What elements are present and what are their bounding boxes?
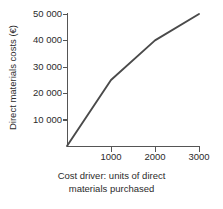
y-axis-ticklabel: 30 000	[10, 62, 62, 72]
series-line-direct-materials-costs	[67, 14, 199, 146]
y-axis-ticklabel: 50 000	[10, 9, 62, 19]
line-chart: Direct materials costs (€) 50 000 40 000…	[0, 0, 223, 209]
x-axis-ticklabel: 2000	[135, 152, 175, 162]
x-axis-ticklabel: 1000	[91, 152, 131, 162]
y-axis-ticklabel: 10 000	[10, 115, 62, 125]
plot-area	[67, 14, 199, 146]
x-axis-title: Cost driver: units of direct materials p…	[0, 170, 223, 195]
y-axis-ticklabel: 40 000	[10, 35, 62, 45]
x-axis-title-line-2: materials purchased	[0, 183, 223, 196]
x-axis-ticklabel: 3000	[179, 152, 219, 162]
y-axis-ticklabel: 20 000	[10, 88, 62, 98]
y-axis-title: Direct materials costs (€)	[7, 4, 18, 152]
x-axis-title-line-1: Cost driver: units of direct	[0, 170, 223, 183]
